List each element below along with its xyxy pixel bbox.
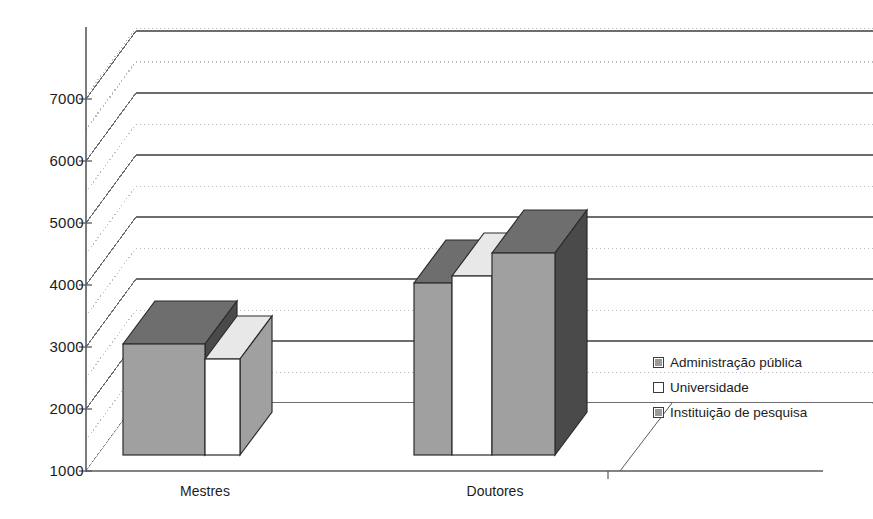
chart-plot-area	[0, 0, 873, 519]
bar-front-face	[452, 276, 492, 455]
y-axis-tick-label: 4000	[49, 277, 84, 292]
legend-item-instituicao-de-pesquisa: Instituição de pesquisa	[653, 400, 868, 425]
x-axis-category-label-doutores: Doutores	[400, 483, 590, 499]
legend-swatch-gray-icon	[653, 407, 664, 418]
y-axis-tick-label: 6000	[49, 153, 84, 168]
y-axis-tick-label: 2000	[49, 401, 84, 416]
legend-label: Universidade	[670, 380, 749, 395]
gridline-wall-6000	[86, 93, 873, 161]
bar-doutores-instituicao-de-pesquisa	[492, 210, 587, 455]
y-axis-tick-label: 1000	[49, 463, 84, 478]
gridline-floor-6000	[86, 124, 873, 192]
x-axis-category-label-mestres: Mestres	[130, 483, 280, 499]
legend-label: Administração pública	[670, 355, 802, 370]
bar-side-face	[555, 210, 587, 455]
bar-front-face	[414, 283, 452, 455]
legend-swatch-white-icon	[653, 382, 664, 393]
bar-front-face	[205, 359, 240, 455]
chart-legend: Administração pública Universidade Insti…	[653, 350, 868, 425]
bar-front-face	[123, 344, 205, 455]
gridline-floor-7000	[86, 62, 873, 130]
gridline-floor-top	[86, 61, 873, 129]
y-axis-tick-label: 3000	[49, 339, 84, 354]
y-axis-tick-label: 7000	[49, 91, 84, 106]
y-axis-tick-label: 5000	[49, 215, 84, 230]
chart-3d-bar: 7000 6000 5000 4000 3000 2000 1000 Mestr…	[0, 0, 873, 519]
gridline-wall-7000	[86, 31, 873, 99]
y-axis-tick-labels: 7000 6000 5000 4000 3000 2000 1000	[18, 0, 84, 519]
legend-item-universidade: Universidade	[653, 375, 868, 400]
legend-swatch-gray-icon	[653, 357, 664, 368]
legend-label: Instituição de pesquisa	[670, 405, 807, 420]
gridline-wall-5000	[86, 155, 873, 223]
bar-front-face	[492, 253, 555, 455]
legend-item-administracao-publica: Administração pública	[653, 350, 868, 375]
